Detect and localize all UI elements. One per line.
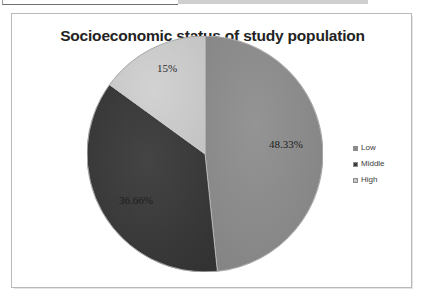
legend-item-middle[interactable]: Middle — [353, 156, 415, 172]
pie-svg — [87, 36, 323, 272]
slice-label-low: 48.33% — [269, 138, 303, 150]
slice-label-high: 15% — [157, 62, 177, 74]
legend-label-high: High — [361, 176, 377, 184]
legend-label-middle: Middle — [361, 160, 385, 168]
slice-label-middle: 36.66% — [119, 194, 153, 206]
legend-swatch-icon-low — [353, 146, 358, 151]
legend-item-low[interactable]: Low — [353, 140, 415, 156]
chart-legend: Low Middle High — [353, 140, 415, 188]
legend-item-high[interactable]: High — [353, 172, 415, 188]
pie-slice-low — [205, 36, 323, 271]
scan-edge-artifact — [2, 0, 178, 5]
legend-label-low: Low — [361, 144, 376, 152]
chart-frame: Socioeconomic status of study population — [11, 13, 412, 288]
legend-swatch-icon-high — [353, 178, 358, 183]
legend-swatch-icon-middle — [353, 162, 358, 167]
pie-chart: 48.33% 36.66% 15% — [87, 36, 327, 276]
scan-edge-artifact-right — [178, 0, 368, 4]
